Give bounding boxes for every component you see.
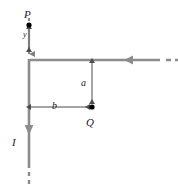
label-point-p: P	[24, 9, 31, 20]
point-q-marker	[89, 104, 94, 109]
figure-canvas	[0, 0, 178, 191]
physics-figure: P y I a b Q	[0, 0, 178, 191]
label-current: I	[12, 137, 16, 148]
label-distance-b: b	[52, 101, 57, 111]
point-p-marker	[26, 22, 31, 27]
label-point-q: Q	[86, 117, 94, 128]
current-arrow-vertical	[25, 125, 34, 135]
label-distance-a: a	[81, 78, 86, 88]
label-distance-y: y	[23, 31, 27, 39]
current-arrow-horizontal	[124, 56, 133, 65]
